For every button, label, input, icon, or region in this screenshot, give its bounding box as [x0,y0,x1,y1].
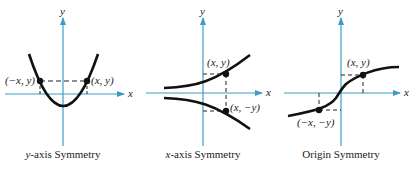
point-label: (−x, y) [5,74,35,87]
y-axis-label: y [199,5,205,17]
point-x-y [360,72,366,78]
point-label: (x, −y) [230,101,260,114]
panel-y-axis-symmetry: x y (−x, y) (x, y) y-axis Symmetry [5,5,133,160]
caption: Origin Symmetry [302,148,380,160]
point-label: (x, y) [91,74,114,87]
point-neg-x-neg-y [316,107,322,113]
caption: y-axis Symmetry [25,148,101,160]
point-neg-x-y [37,78,43,84]
point-label: (x, y) [347,56,370,69]
point-label: (−x, −y) [297,116,335,129]
point-x-y [223,71,229,77]
point-x-neg-y [223,108,229,114]
x-axis-label: x [265,86,271,98]
s-curve [288,67,399,116]
x-axis-label: x [127,87,133,99]
panel-origin-symmetry: x y (x, y) (−x, −y) Origin Symmetry [284,5,409,160]
symmetry-diagrams: x y (−x, y) (x, y) y-axis Symmetry x y (… [0,0,417,170]
panel-x-axis-symmetry: x y (x, y) (x, −y) x-axis Symmetry [146,5,271,160]
x-axis-label: x [403,86,409,98]
point-label: (x, y) [207,56,230,69]
caption: x-axis Symmetry [165,148,241,160]
point-x-y [84,78,90,84]
y-axis-label: y [59,5,65,17]
y-axis-label: y [337,5,343,17]
